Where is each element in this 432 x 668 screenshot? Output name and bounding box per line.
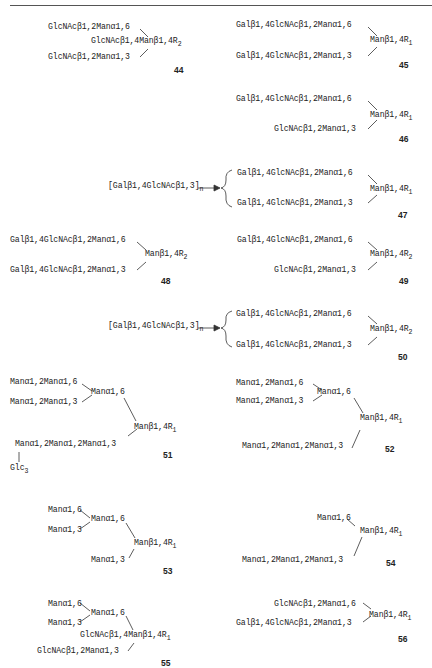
s47-line1: Galβ1,4GlcNAcβ1,2Manα1,6 (237, 168, 353, 178)
s48-core: Manβ1,4R2 (145, 249, 187, 263)
s50-repeat-unit: [Galβ1,4GlcNAcβ1,3]n (108, 321, 203, 335)
s55-core: GlcNAcβ1,4Manβ1,4R1 (80, 630, 170, 644)
s50-line3: Galβ1,4GlcNAcβ1,2Manα1,3 (236, 340, 352, 350)
s56-line1: GlcNAcβ1,2Manα1,6 (274, 599, 356, 609)
s46-line1: Galβ1,4GlcNAcβ1,2Manα1,6 (236, 94, 352, 104)
s51-arm-long: Manα1,2Manα1,2Manα1,3 (15, 439, 116, 449)
structure-number-56: 56 (398, 634, 407, 644)
s49-line3: GlcNAcβ1,2Manα1,3 (274, 265, 356, 275)
s54-core: Manβ1,4R1 (360, 526, 402, 540)
s46-core: Manβ1,4R1 (370, 110, 412, 124)
s51-core: Manβ1,4R1 (134, 422, 176, 436)
structure-number-44: 44 (174, 65, 183, 75)
s56-core: Manβ1,4R1 (369, 610, 411, 624)
s50-line1: Galβ1,4GlcNAcβ1,2Manα1,6 (236, 309, 352, 319)
structure-number-46: 46 (399, 134, 408, 144)
s50-core: Manβ1,4R2 (370, 324, 412, 338)
s44-line2: GlcNAcβ1,4Manβ1,4R2 (91, 36, 181, 50)
s44-line1: GlcNAcβ1,2Manα1,6 (48, 22, 130, 32)
s48-line3: Galβ1,4GlcNAcβ1,2Manα1,3 (10, 265, 126, 275)
s49-line1: Galβ1,4GlcNAcβ1,2Manα1,6 (237, 235, 353, 245)
s48-line1: Galβ1,4GlcNAcβ1,2Manα1,6 (10, 235, 126, 245)
structure-number-45: 45 (399, 60, 408, 70)
structure-number-50: 50 (398, 352, 407, 362)
s47-line3: Galβ1,4GlcNAcβ1,2Manα1,3 (237, 198, 353, 208)
top-rule (10, 5, 432, 6)
s44-line3: GlcNAcβ1,2Manα1,3 (48, 52, 130, 62)
s52-branch: Manα1,6 (317, 387, 351, 397)
s52-arm-long: Manα1,2Manα1,2Manα1,3 (242, 441, 343, 451)
s54-arm-6: Manα1,6 (317, 513, 351, 523)
s46-line3: GlcNAcβ1,2Manα1,3 (274, 124, 356, 134)
s53-arm-long: Manα1,3 (91, 555, 125, 565)
connector-lines (0, 0, 432, 668)
structure-number-48: 48 (161, 276, 170, 286)
s56-line3: Galβ1,4GlcNAcβ1,2Manα1,3 (236, 618, 352, 628)
s55-branch: Manα1,6 (91, 608, 125, 618)
s54-arm-long: Manα1,2Manα1,2Manα1,3 (242, 555, 343, 565)
structure-number-52: 52 (385, 444, 394, 454)
s51-glc: Glc3 (10, 463, 28, 477)
s45-core: Manβ1,4R1 (370, 35, 412, 49)
structure-number-53: 53 (163, 566, 172, 576)
s45-line3: Galβ1,4GlcNAcβ1,2Manα1,3 (236, 51, 352, 61)
s53-arm-3: Manα1,3 (48, 525, 82, 535)
s53-arm-6: Manα1,6 (48, 505, 82, 515)
s51-branch: Manα1,6 (91, 387, 125, 397)
structure-number-51: 51 (163, 450, 172, 460)
s52-arm-3: Manα1,2Manα1,3 (236, 396, 303, 406)
s55-arm-3: Manα1,3 (48, 618, 82, 628)
s55-arm-6: Manα1,6 (48, 599, 82, 609)
s51-arm-3: Manα1,2Manα1,3 (10, 397, 77, 407)
structure-number-47: 47 (398, 210, 407, 220)
s55-arm-long: GlcNAcβ1,2Manα1,3 (37, 646, 119, 656)
s53-core: Manβ1,4R1 (134, 538, 176, 552)
s51-arm-6: Manα1,2Manα1,6 (10, 377, 77, 387)
s53-branch: Manα1,6 (91, 514, 125, 524)
s52-core: Manβ1,4R1 (360, 413, 402, 427)
structure-number-54: 54 (386, 558, 395, 568)
s52-arm-6: Manα1,2Manα1,6 (236, 378, 303, 388)
s47-core: Manβ1,4R1 (370, 184, 412, 198)
s49-core: Manβ1,4R2 (370, 249, 412, 263)
structure-number-55: 55 (161, 658, 170, 668)
structure-number-49: 49 (399, 276, 408, 286)
s47-repeat-unit: [Galβ1,4GlcNAcβ1,3]n (108, 181, 203, 195)
s45-line1: Galβ1,4GlcNAcβ1,2Manα1,6 (236, 20, 352, 30)
